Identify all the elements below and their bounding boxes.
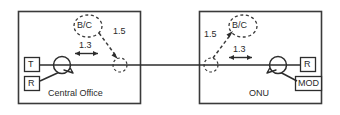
onu-wavelength-up-label: 1.5 bbox=[204, 30, 217, 39]
onu-modulator-label: MOD bbox=[298, 79, 319, 88]
central-office-caption: Central Office bbox=[48, 89, 103, 98]
onu-receiver-label: R bbox=[304, 60, 311, 69]
co-wavelength-up-label: 1.5 bbox=[113, 27, 126, 36]
onu-wavelength-down-arrow bbox=[229, 55, 252, 60]
co-bc-leader-arrow bbox=[99, 33, 118, 59]
co-transmitter-label: T bbox=[28, 60, 34, 69]
onu-wavelength-down-label: 1.3 bbox=[233, 45, 246, 54]
diagram-root: T R B/C 1.3 1.5 Central Office R MOD B/C… bbox=[0, 0, 340, 115]
co-receiver-label: R bbox=[28, 79, 35, 88]
onu-caption: ONU bbox=[249, 89, 269, 98]
co-wavelength-down-label: 1.3 bbox=[79, 41, 92, 50]
onu-bc-bubble-label: B/C bbox=[232, 21, 247, 30]
co-wavelength-down-arrow bbox=[75, 51, 98, 56]
co-bc-bubble-label: B/C bbox=[77, 21, 92, 30]
